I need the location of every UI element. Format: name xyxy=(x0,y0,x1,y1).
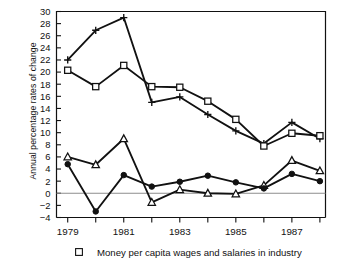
marker-square xyxy=(205,98,211,104)
data-series-group xyxy=(64,14,324,214)
marker-circle xyxy=(177,179,183,185)
plot-frame xyxy=(57,12,326,218)
y-tick-label: 12 xyxy=(40,115,50,126)
series-line xyxy=(68,164,320,211)
y-tick-label: 26 xyxy=(40,30,50,41)
y-tick-label-group: −4−2024681012141618202224262830 xyxy=(40,6,51,223)
y-tick-label: 28 xyxy=(40,18,50,29)
series-line xyxy=(68,18,320,144)
y-tick-label: 30 xyxy=(40,6,50,17)
y-tick-label: 2 xyxy=(45,176,50,187)
marker-triangle xyxy=(64,153,71,160)
marker-circle xyxy=(205,173,211,179)
chart-figure: Annual percentage rates of change −4−202… xyxy=(0,0,338,264)
marker-circle xyxy=(289,171,295,177)
marker-circle xyxy=(65,161,71,167)
marker-square xyxy=(289,130,295,136)
x-tick-label-group: 19791981198319851987 xyxy=(57,226,303,237)
marker-square xyxy=(261,143,267,149)
series-circle-filled xyxy=(65,161,323,214)
y-tick-label: 4 xyxy=(45,163,50,174)
y-tick-label: −4 xyxy=(40,212,51,223)
y-tick-label: 16 xyxy=(40,91,50,102)
plot-area-wrapper: −4−2024681012141618202224262830 19791981… xyxy=(0,0,338,264)
y-tick-label: 24 xyxy=(40,42,50,53)
marker-square xyxy=(65,67,71,73)
y-tick-label: −2 xyxy=(40,200,51,211)
marker-square xyxy=(149,84,155,90)
marker-square xyxy=(177,84,183,90)
marker-circle xyxy=(149,184,155,190)
marker-triangle xyxy=(288,157,295,164)
marker-circle xyxy=(121,172,127,178)
line-chart-svg: −4−2024681012141618202224262830 19791981… xyxy=(0,0,338,264)
y-tick-label: 0 xyxy=(45,188,50,199)
marker-triangle xyxy=(120,135,127,142)
x-tick-label: 1981 xyxy=(113,226,135,237)
y-tick-label: 20 xyxy=(40,66,50,77)
marker-circle xyxy=(317,178,323,184)
legend-label: Money per capita wages and salaries in i… xyxy=(97,247,302,258)
x-tick-mark-group xyxy=(68,218,320,223)
x-tick-label: 1985 xyxy=(225,226,247,237)
x-tick-label: 1983 xyxy=(169,226,191,237)
y-tick-mark-group xyxy=(57,12,62,218)
y-tick-label: 6 xyxy=(45,151,50,162)
marker-plus xyxy=(148,99,155,106)
marker-plus xyxy=(120,14,127,21)
marker-square xyxy=(121,62,127,68)
series-triangle xyxy=(64,135,324,205)
legend: Money per capita wages and salaries in i… xyxy=(76,247,302,258)
marker-circle xyxy=(93,209,99,215)
legend-marker-square xyxy=(76,249,83,256)
marker-square xyxy=(233,116,239,122)
y-tick-label: 22 xyxy=(40,54,50,65)
y-tick-label: 10 xyxy=(40,127,50,138)
marker-circle xyxy=(233,180,239,186)
marker-square xyxy=(93,84,99,90)
y-tick-label: 14 xyxy=(40,103,50,114)
x-tick-label: 1987 xyxy=(281,226,303,237)
marker-square xyxy=(317,133,323,139)
y-tick-label: 18 xyxy=(40,79,50,90)
y-tick-label: 8 xyxy=(45,139,50,150)
x-tick-label: 1979 xyxy=(57,226,79,237)
marker-circle xyxy=(261,186,267,192)
